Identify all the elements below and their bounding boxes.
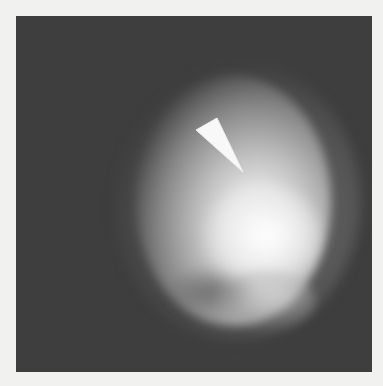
- image-panel: [16, 16, 372, 372]
- arrow-marker-icon: [16, 16, 372, 372]
